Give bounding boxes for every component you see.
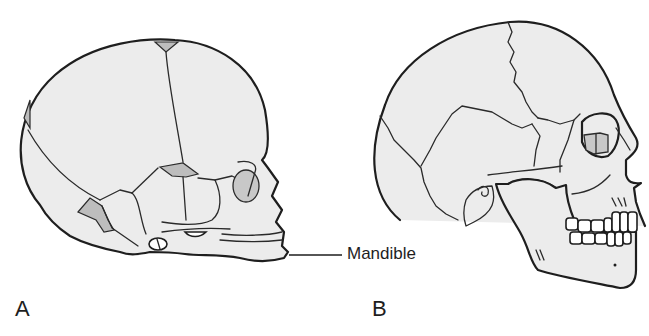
panel-label-b: B xyxy=(372,296,387,322)
skull-comparison-figure: Mandible A B xyxy=(0,0,649,336)
panel-label-a: A xyxy=(15,296,30,322)
mandible-label: Mandible xyxy=(347,244,416,264)
adult-skull-drawing xyxy=(0,0,649,336)
